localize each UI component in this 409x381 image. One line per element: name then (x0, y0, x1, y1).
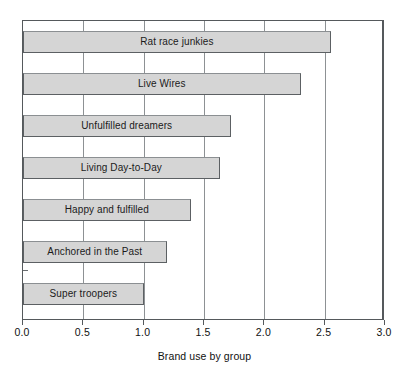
bar-label: Super troopers (23, 283, 144, 305)
bar-row: Living Day-to-Day (23, 157, 385, 179)
x-tick-label: 1.0 (123, 326, 163, 338)
x-tick-label: 2.0 (243, 326, 283, 338)
x-tick-2.0 (263, 320, 264, 325)
x-tick-label: 0.5 (62, 326, 102, 338)
bar-row: Unfulfilled dreamers (23, 115, 385, 137)
bar-label: Rat race junkies (23, 31, 331, 53)
x-tick-label: 2.5 (304, 326, 344, 338)
bar-label: Living Day-to-Day (23, 157, 220, 179)
x-axis-title: Brand use by group (0, 350, 409, 362)
x-tick-label: 0.0 (2, 326, 42, 338)
x-tick-0.5 (82, 320, 83, 325)
x-tick-0.0 (22, 320, 23, 325)
bar-row: Rat race junkies (23, 31, 385, 53)
bars-container: Rat race junkiesLive WiresUnfulfilled dr… (23, 21, 382, 319)
bar-row: Anchored in the Past (23, 241, 385, 263)
x-tick-1.5 (203, 320, 204, 325)
x-tick-label: 1.5 (183, 326, 223, 338)
bar-row: Super troopers (23, 283, 385, 305)
bar-row: Happy and fulfilled (23, 199, 385, 221)
bar-label: Happy and fulfilled (23, 199, 191, 221)
x-tick-2.5 (324, 320, 325, 325)
y-axis-tick-mark (23, 270, 28, 271)
plot-area: Rat race junkiesLive WiresUnfulfilled dr… (22, 20, 384, 320)
bar-row: Live Wires (23, 73, 385, 95)
x-tick-3.0 (384, 320, 385, 325)
x-tick-1.0 (143, 320, 144, 325)
bar-label: Live Wires (23, 73, 301, 95)
bar-label: Unfulfilled dreamers (23, 115, 231, 137)
bar-chart-figure: Rat race junkiesLive WiresUnfulfilled dr… (0, 0, 409, 381)
x-tick-label: 3.0 (364, 326, 404, 338)
bar-label: Anchored in the Past (23, 241, 167, 263)
